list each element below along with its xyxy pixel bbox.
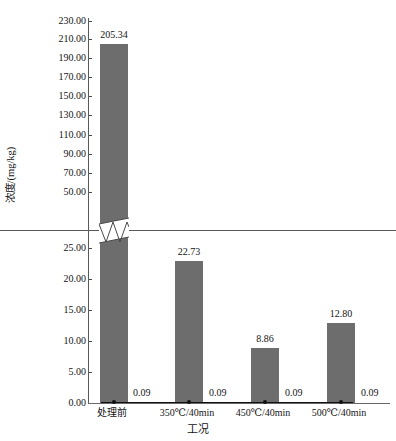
y-tick-label: 170.00 (30, 72, 86, 82)
series-marker[interactable] (339, 400, 343, 404)
series-marker[interactable] (112, 400, 116, 404)
x-tick-label: 处理前 (74, 407, 150, 419)
series-value-label: 0.09 (133, 388, 151, 398)
series-value-label: 0.09 (209, 388, 227, 398)
bar-value-label: 22.73 (161, 247, 217, 257)
bar-chart: 浓度/(mg/kg) 230.00 210.00 190.00 170.00 1… (0, 0, 396, 441)
bar-350c-40min[interactable] (175, 261, 203, 403)
x-tick-label: 500℃/40min (299, 407, 379, 419)
bar-value-label: 12.80 (313, 309, 369, 319)
y-tick-label: 130.00 (30, 110, 86, 120)
axis-break-zigzag-icon (99, 215, 129, 246)
x-tick-label: 450℃/40min (223, 407, 303, 419)
y-tick-label: 15.00 (30, 305, 86, 315)
y-tick-label: 150.00 (30, 91, 86, 101)
y-tick-label: 25.00 (30, 243, 86, 253)
y-tick-label: 70.00 (30, 168, 86, 178)
bar-500c-40min[interactable] (327, 323, 355, 403)
x-axis-title: 工况 (0, 420, 396, 436)
series-value-label: 0.09 (285, 388, 303, 398)
bar-value-label: 8.86 (237, 334, 293, 344)
x-tick-label: 350℃/40min (147, 407, 227, 419)
y-tick-label: 20.00 (30, 274, 86, 284)
axis-break-line (0, 230, 396, 231)
y-axis-title: 浓度/(mg/kg) (2, 130, 18, 220)
bar-450c-40min[interactable] (251, 348, 279, 403)
y-tick-label: 210.00 (30, 34, 86, 44)
y-axis-line (88, 18, 89, 404)
y-tick-label: 5.00 (30, 367, 86, 377)
y-tick-label: 10.00 (30, 336, 86, 346)
y-tick-label: 230.00 (30, 16, 86, 26)
series-marker[interactable] (263, 400, 267, 404)
y-axis-tick-labels: 230.00 210.00 190.00 170.00 150.00 130.0… (30, 0, 86, 441)
y-tick-label: 90.00 (30, 149, 86, 159)
y-tick-label: 110.00 (30, 130, 86, 140)
series-value-label: 0.09 (361, 388, 379, 398)
y-tick-label: 190.00 (30, 53, 86, 63)
y-tick-label: 50.00 (30, 187, 86, 197)
bar-value-label: 205.34 (86, 30, 142, 40)
series-marker[interactable] (187, 400, 191, 404)
baseline-series-line (101, 402, 353, 403)
